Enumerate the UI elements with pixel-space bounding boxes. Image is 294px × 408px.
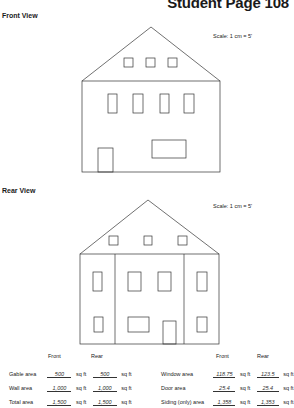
rear-lower-window bbox=[197, 317, 207, 332]
rear-upper-window bbox=[93, 272, 102, 291]
right-col-rear-header: Rear bbox=[257, 353, 269, 359]
front-wall bbox=[82, 81, 220, 172]
front-gable-window bbox=[146, 58, 155, 67]
unit-label: sq ft bbox=[240, 399, 250, 405]
total-front-value: 1,500 bbox=[47, 399, 71, 406]
table-row-total: Total area 1,500 sq ft 1,500 sq ft bbox=[9, 390, 132, 408]
unit-label: sq ft bbox=[283, 399, 293, 405]
left-col-rear-header: Rear bbox=[91, 353, 103, 359]
front-roof bbox=[82, 27, 220, 81]
table-row-siding: Siding (only) area 1,358 sq ft 1,353 sq … bbox=[161, 390, 294, 408]
rear-lower-window bbox=[94, 317, 103, 332]
rear-wall bbox=[80, 254, 219, 344]
rear-wide-window bbox=[128, 317, 149, 332]
front-door bbox=[98, 148, 113, 172]
right-col-front-header: Front bbox=[216, 353, 229, 359]
rear-gable-window bbox=[109, 236, 118, 245]
rear-upper-window bbox=[197, 272, 207, 291]
rear-upper-window bbox=[128, 272, 141, 291]
front-wall-window bbox=[108, 94, 117, 113]
rear-gable-window bbox=[178, 236, 187, 245]
siding-rear-value: 1,353 bbox=[257, 399, 279, 406]
front-wall-window bbox=[184, 94, 194, 113]
siding-front-value: 1,358 bbox=[213, 399, 235, 406]
rear-upper-window bbox=[158, 272, 171, 291]
front-house-drawing bbox=[82, 27, 220, 172]
row-label: Siding (only) area bbox=[161, 399, 209, 405]
rear-gable-window bbox=[144, 236, 152, 245]
rear-door bbox=[163, 321, 176, 344]
row-label: Total area bbox=[9, 399, 43, 405]
front-wall-window bbox=[133, 94, 143, 113]
left-col-front-header: Front bbox=[48, 353, 61, 359]
front-gable-window bbox=[168, 58, 177, 67]
front-wall-window bbox=[160, 94, 169, 113]
front-picture-window bbox=[152, 140, 186, 158]
rear-house-drawing bbox=[80, 200, 219, 344]
unit-label: sq ft bbox=[121, 399, 131, 405]
rear-roof bbox=[80, 200, 219, 254]
total-rear-value: 1,500 bbox=[93, 399, 117, 406]
front-gable-window bbox=[124, 58, 133, 67]
unit-label: sq ft bbox=[76, 399, 86, 405]
